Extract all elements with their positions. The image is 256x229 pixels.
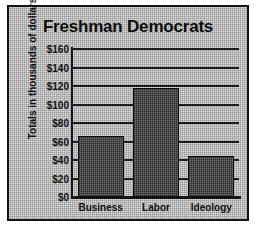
y-axis-tick-mark (71, 196, 76, 198)
y-axis-tick-mark (71, 141, 76, 143)
y-axis-tick-mark (71, 104, 76, 106)
bar (133, 88, 179, 197)
y-axis-tick-mark (71, 122, 76, 124)
chart-screenshot: Freshman Democrats Totals in thousands o… (0, 0, 256, 229)
y-axis-tick-mark (71, 85, 76, 87)
y-axis-tick-label: $140 (25, 62, 69, 73)
bar (188, 156, 234, 197)
y-axis-tick-mark (71, 67, 76, 69)
chart-frame: Freshman Democrats Totals in thousands o… (7, 5, 249, 221)
y-axis-tick-mark (71, 159, 76, 161)
y-axis-tick-labels: $0$20$40$60$80$100$120$140$160 (21, 49, 69, 197)
y-axis-tick-label: $160 (25, 44, 69, 55)
x-axis-category-label: Business (78, 202, 122, 213)
y-axis-tick-label: $120 (25, 81, 69, 92)
bar (78, 136, 124, 197)
y-axis-tick-label: $100 (25, 99, 69, 110)
x-axis-category-label: Ideology (191, 202, 232, 213)
x-axis-category-label: Labor (142, 202, 170, 213)
gridline (73, 85, 239, 87)
gridline (73, 48, 239, 50)
y-axis-tick-label: $40 (25, 155, 69, 166)
y-axis-tick-label: $60 (25, 136, 69, 147)
y-axis-tick-label: $80 (25, 118, 69, 129)
y-axis-tick-label: $0 (25, 192, 69, 203)
plot-area (73, 49, 239, 197)
y-axis-tick-label: $20 (25, 173, 69, 184)
y-axis-tick-mark (71, 48, 76, 50)
y-axis-tick-mark (71, 178, 76, 180)
gridline (73, 67, 239, 69)
chart-title: Freshman Democrats (9, 17, 247, 37)
